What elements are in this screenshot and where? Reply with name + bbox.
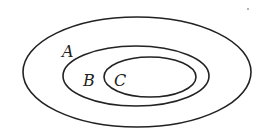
set-a-label: A — [60, 42, 74, 61]
set-a-ellipse — [23, 17, 251, 127]
set-b-label: B — [82, 71, 95, 90]
venn-diagram: A B C — [0, 0, 263, 138]
set-c-label: C — [114, 71, 126, 90]
stray-dot — [247, 8, 249, 10]
